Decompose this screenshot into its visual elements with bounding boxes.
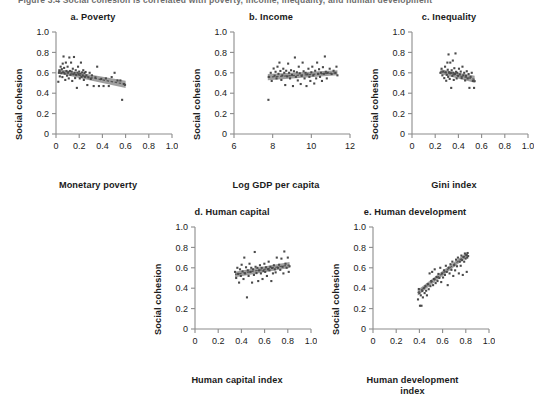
data-point xyxy=(462,256,464,258)
data-point xyxy=(442,276,444,278)
y-tick-label: 0.4 xyxy=(214,88,227,98)
data-point xyxy=(453,264,455,266)
data-point xyxy=(275,71,277,73)
data-point xyxy=(283,250,285,252)
data-point xyxy=(321,80,323,82)
data-point xyxy=(441,74,443,76)
data-point xyxy=(66,75,68,77)
y-tick-label: 0 xyxy=(222,129,227,139)
data-point xyxy=(313,82,315,84)
data-point xyxy=(77,66,79,68)
data-point xyxy=(85,74,87,76)
data-point xyxy=(251,282,253,284)
data-point xyxy=(436,280,438,282)
data-point xyxy=(462,274,464,276)
y-tick-label: 0.8 xyxy=(353,243,366,253)
y-tick-label: 1.0 xyxy=(353,223,366,232)
data-point xyxy=(315,77,317,79)
data-point xyxy=(441,272,443,274)
y-tick-label: 0.2 xyxy=(392,109,405,119)
x-tick-label: 0.4 xyxy=(96,141,109,151)
panel-b-plot: 68101200.20.40.60.81.0 xyxy=(208,28,356,160)
data-point xyxy=(312,74,314,76)
y-tick-label: 0.4 xyxy=(353,283,366,293)
x-tick-label: 0.6 xyxy=(436,336,449,346)
data-point xyxy=(467,252,469,254)
data-point xyxy=(294,56,296,58)
panel-a-xlabel: Monetary poverty xyxy=(18,180,178,191)
data-point xyxy=(240,275,242,277)
data-point xyxy=(72,68,74,70)
data-point xyxy=(334,72,336,74)
panel-a-poverty: a. Poverty Social cohesion 00.20.40.60.8… xyxy=(8,12,178,197)
plot-area-a: 00.20.40.60.81.000.20.40.60.81.0 xyxy=(30,28,178,160)
data-point xyxy=(255,272,257,274)
data-point xyxy=(283,72,285,74)
data-point xyxy=(64,73,66,75)
data-point xyxy=(319,76,321,78)
data-point xyxy=(270,72,272,74)
data-point xyxy=(329,68,331,70)
data-point xyxy=(266,275,268,277)
data-point xyxy=(323,73,325,75)
data-point xyxy=(289,77,291,79)
data-point xyxy=(435,282,437,284)
data-point xyxy=(237,273,239,275)
data-point xyxy=(452,275,454,277)
x-tick-label: 0.8 xyxy=(499,141,512,151)
data-point xyxy=(282,272,284,274)
data-point xyxy=(276,66,278,68)
data-point xyxy=(456,265,458,267)
data-point xyxy=(421,290,423,292)
figure-container: Figure 3.4 Social cohesion is correlated… xyxy=(0,0,539,407)
y-tick-label: 1.0 xyxy=(214,28,227,37)
panel-c-inequality: c. Inequality Social cohesion 00.20.40.6… xyxy=(364,12,534,197)
clipped-figure-caption: Figure 3.4 Social cohesion is correlated… xyxy=(18,0,448,5)
data-point xyxy=(449,263,451,265)
data-point xyxy=(61,68,63,70)
data-point xyxy=(307,68,309,70)
data-point xyxy=(236,267,238,269)
data-point xyxy=(423,287,425,289)
data-point xyxy=(305,85,307,87)
data-point xyxy=(420,294,422,296)
data-point xyxy=(58,72,60,74)
data-point xyxy=(100,78,102,80)
panel-c-plot: 00.20.40.60.81.000.20.40.60.81.0 xyxy=(386,28,534,160)
panel-b-ylabel: Social cohesion xyxy=(192,69,202,140)
data-point xyxy=(333,70,335,72)
data-point xyxy=(455,259,457,261)
data-point xyxy=(245,266,247,268)
data-point xyxy=(434,268,436,270)
data-point xyxy=(74,77,76,79)
plot-area-d: 00.20.40.60.81.000.20.40.60.81.0 xyxy=(169,223,317,355)
data-point xyxy=(447,284,449,286)
data-point xyxy=(76,87,78,89)
data-point xyxy=(427,283,429,285)
data-point xyxy=(432,284,434,286)
data-point xyxy=(326,77,328,79)
data-point xyxy=(111,76,113,78)
data-point xyxy=(105,77,107,79)
panel-c-ylabel: Social cohesion xyxy=(370,69,380,140)
x-tick-label: 0.4 xyxy=(235,336,248,346)
data-point xyxy=(282,68,284,70)
data-point xyxy=(293,70,295,72)
data-point xyxy=(458,68,460,70)
panel-d-title: d. Human capital xyxy=(147,207,317,217)
data-point xyxy=(243,257,245,259)
data-point xyxy=(75,69,77,71)
data-point xyxy=(279,269,281,271)
data-point xyxy=(444,66,446,68)
x-tick-label: 12 xyxy=(345,141,355,151)
panel-d-xlabel: Human capital index xyxy=(157,375,317,386)
panel-e-title: e. Human development xyxy=(325,207,505,217)
data-point xyxy=(473,87,475,89)
data-point xyxy=(336,74,338,76)
data-point xyxy=(89,72,91,74)
data-point xyxy=(450,269,452,271)
data-point xyxy=(242,270,244,272)
x-tick-label: 0.4 xyxy=(452,141,465,151)
y-tick-label: 0.6 xyxy=(353,263,366,273)
data-point xyxy=(456,72,458,74)
